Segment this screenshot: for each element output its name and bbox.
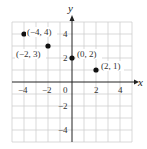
point-label: (0, 2) [77,49,97,59]
x-tick-label: 2 [94,85,99,95]
x-tick-label: 4 [118,85,123,95]
axes [12,20,134,142]
y-tick-label: −2 [58,101,68,111]
point-neg2-3 [45,43,50,48]
y-axis-label: y [67,2,73,14]
x-tick-label: −2 [42,85,52,95]
x-tick-label: 0 [63,85,68,95]
x-tick-label: −4 [18,85,28,95]
point-label: (2, 1) [101,61,121,71]
point-label: (−2, 3) [16,49,41,59]
point-neg4-4 [21,31,26,36]
x-tick-labels: −4 −2 0 2 4 [18,85,123,95]
coordinate-plane: x y −4 −2 0 2 4 4 2 −2 −4 (−4, 4) (−2, 3… [0,0,147,149]
y-tick-label: 4 [63,29,68,39]
point-0-2 [69,55,74,60]
point-label: (−4, 4) [27,27,52,37]
x-axis-label: x [137,76,143,88]
point-2-1 [93,67,98,72]
y-axis-arrow-icon [70,15,75,21]
y-tick-label: −4 [58,125,68,135]
y-tick-label: 2 [63,53,68,63]
